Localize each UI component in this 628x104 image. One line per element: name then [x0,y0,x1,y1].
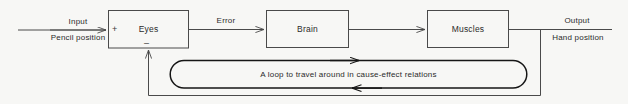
input-label-top: Input [40,17,116,26]
output-label-top: Output [546,16,608,25]
block-diagram-canvas: Eyes Brain Muscles + – Input Pencil posi… [0,0,628,104]
error-label: Error [196,16,256,25]
input-label-bottom: Pencil position [32,33,124,42]
block-label-muscles: Muscles [427,24,509,34]
loop-caption: A loop to travel around in cause-effect … [184,70,513,79]
block-label-brain: Brain [266,24,349,34]
output-label-bottom: Hand position [541,33,615,42]
summing-junction-minus-sign: – [144,38,149,48]
diagram-vector-layer [0,0,628,104]
